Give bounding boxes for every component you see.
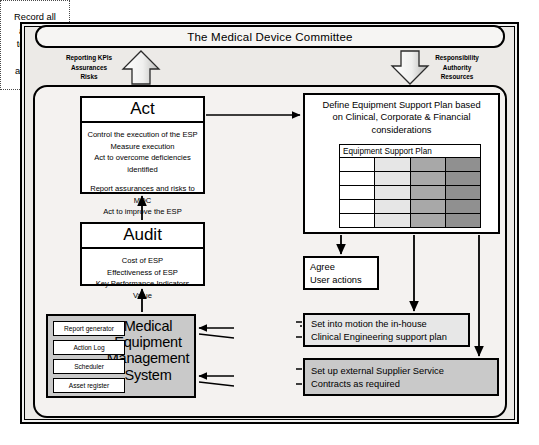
esp-cell (340, 172, 375, 185)
define-equipment-support-plan-box: Define Equipment Support Plan based on C… (303, 93, 500, 234)
act-line-5: Act to improve the ESP (86, 206, 199, 218)
esp-cell (375, 214, 410, 227)
supplier-line-2: Contracts as required (311, 378, 497, 391)
esp-cell (446, 186, 480, 199)
agree-user-actions-box: Agree User actions (303, 256, 379, 290)
esp-cell (411, 158, 446, 171)
esp-cell (411, 172, 446, 185)
reporting-line-2: Assurances (58, 63, 120, 73)
reporting-arrow-label: Reporting KPIs Assurances Risks (58, 53, 120, 82)
responsibility-line-2: Authority (425, 63, 489, 73)
table-row (340, 214, 480, 227)
audit-box: Audit Cost of ESP Effectiveness of ESP K… (80, 222, 205, 286)
act-line-2: Measure execution (86, 141, 199, 153)
audit-title: Audit (82, 224, 203, 249)
inhouse-line-1: Set into motion the in-house (311, 318, 468, 331)
define-heading-line-3: considerations (311, 124, 492, 136)
esp-cell (340, 214, 375, 227)
act-line-4: Report assurances and risks to MDC (86, 183, 199, 207)
equipment-support-plan-table: Equipment Support Plan (339, 144, 481, 228)
audit-line-4: Value (86, 290, 199, 302)
audit-line-1: Cost of ESP (86, 255, 199, 267)
responsibility-arrow-label: Responsibility Authority Resources (425, 53, 489, 82)
audit-line-3: Key Performance Indicators (86, 278, 199, 290)
supplier-line-1: Set up external Supplier Service (311, 365, 497, 378)
esp-cell (340, 200, 375, 213)
act-line-3: Act to overcome deficiencies identified (86, 152, 199, 176)
inhouse-line-2: Clinical Engineering support plan (311, 331, 468, 344)
mems-module-action-log[interactable]: Action Log (53, 340, 125, 355)
reporting-line-1: Reporting KPIs (58, 53, 120, 63)
esp-cell (375, 172, 410, 185)
diagram-canvas: The Medical Device Committee (0, 0, 539, 445)
medical-equipment-management-system-box: Medical Equipment Management System Repo… (46, 314, 196, 398)
mems-module-report-generator[interactable]: Report generator (53, 321, 125, 336)
esp-cell (375, 158, 410, 171)
esp-cell (446, 214, 480, 227)
table-row (340, 172, 480, 186)
medical-device-committee-bar: The Medical Device Committee (35, 25, 505, 48)
esp-cell (340, 186, 375, 199)
act-box: Act Control the execution of the ESP Mea… (80, 96, 205, 194)
esp-cell (446, 200, 480, 213)
act-line-1: Control the execution of the ESP (86, 129, 199, 141)
mems-module-scheduler[interactable]: Scheduler (53, 359, 125, 374)
mems-module-asset-register[interactable]: Asset register (53, 378, 125, 393)
external-supplier-service-box: Set up external Supplier Service Contrac… (303, 358, 499, 396)
responsibility-line-1: Responsibility (425, 53, 489, 63)
table-row (340, 200, 480, 214)
in-house-support-plan-box: Set into motion the in-house Clinical En… (303, 313, 470, 347)
reporting-line-3: Risks (58, 72, 120, 82)
esp-cell (375, 186, 410, 199)
act-spacer (86, 176, 199, 183)
committee-label: The Medical Device Committee (187, 31, 352, 43)
esp-cell (411, 200, 446, 213)
esp-table-header: Equipment Support Plan (340, 145, 480, 158)
agree-line-1: Agree (310, 261, 377, 274)
esp-table-rows (340, 158, 480, 227)
esp-cell (411, 214, 446, 227)
act-title: Act (82, 98, 203, 123)
esp-cell (340, 158, 375, 171)
esp-cell (446, 172, 480, 185)
audit-body: Cost of ESP Effectiveness of ESP Key Per… (82, 249, 203, 306)
table-row (340, 186, 480, 200)
act-body: Control the execution of the ESP Measure… (82, 123, 203, 222)
esp-cell (411, 186, 446, 199)
esp-cell (375, 200, 410, 213)
define-heading: Define Equipment Support Plan based on C… (305, 95, 498, 138)
table-row (340, 158, 480, 172)
agree-line-2: User actions (310, 274, 377, 287)
define-heading-line-1: Define Equipment Support Plan based (311, 99, 492, 111)
responsibility-line-3: Resources (425, 72, 489, 82)
esp-cell (446, 158, 480, 171)
audit-line-2: Effectiveness of ESP (86, 267, 199, 279)
define-heading-line-2: on Clinical, Corporate & Financial (311, 111, 492, 123)
